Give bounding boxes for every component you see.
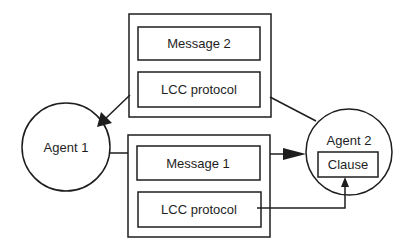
message-packet-bottom: Message 1 LCC protocol (128, 135, 270, 237)
clause-label: Clause (328, 157, 368, 172)
agent-1-label: Agent 1 (44, 140, 89, 155)
message-2-label: Message 2 (167, 36, 231, 51)
agent-2-node: Agent 2 Clause (306, 109, 392, 195)
diagram-canvas: Message 2 LCC protocol Message 1 LCC pro… (0, 0, 411, 246)
lcc-protocol-bottom-label: LCC protocol (161, 202, 237, 217)
message-packet-top: Message 2 LCC protocol (129, 14, 271, 117)
agent-2-label: Agent 2 (327, 133, 372, 148)
edge-packet-top-to-agent1 (104, 95, 130, 120)
edge-agent2-to-packet-top (270, 97, 316, 121)
agent-1-node: Agent 1 (22, 103, 110, 191)
lcc-protocol-top-label: LCC protocol (161, 82, 237, 97)
message-1-label: Message 1 (166, 156, 230, 171)
arrowhead-to-agent2-icon (283, 148, 306, 160)
